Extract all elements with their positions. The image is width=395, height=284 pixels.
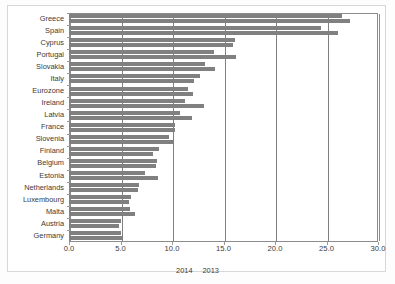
bar-2014 [69,219,121,223]
category-label: Malta [46,208,64,216]
chart-legend: 20142013 [0,259,395,277]
bar-2014 [69,123,175,127]
gridline-30.0 [379,14,380,241]
bar-2013 [69,92,193,96]
bar-group [69,147,378,159]
bars-layer [69,13,378,242]
category-label: Italy [50,75,64,83]
bar-2013 [69,188,138,192]
category-label: Belgium [37,159,64,167]
bar-2014 [69,26,321,30]
bar-2014 [69,38,235,42]
bar-2014 [69,62,205,66]
category-label: Austria [41,220,64,228]
category-label: Netherlands [24,184,64,192]
bar-2014 [69,135,169,139]
bar-chart: GreeceSpainCyprusPortugalSlovakiaItalyEu… [0,0,395,284]
category-label: Germany [34,232,64,240]
bar-group [69,123,378,135]
x-tick-label: 20.0 [268,244,283,253]
bar-2014 [69,147,159,151]
bar-group [69,135,378,147]
bar-2014 [69,50,214,54]
category-label: Portugal [36,51,64,59]
bar-2014 [69,159,157,163]
bar-group [69,38,378,50]
bar-group [69,50,378,62]
bar-2013 [69,152,153,156]
x-tick-mark [378,242,379,245]
legend-item-2014: 2014 [176,266,192,275]
bar-2013 [69,55,236,59]
bar-2013 [69,67,215,71]
bar-2014 [69,207,130,211]
bar-2014 [69,231,121,235]
category-axis: GreeceSpainCyprusPortugalSlovakiaItalyEu… [8,13,67,242]
category-label: Slovenia [36,135,64,143]
category-label: Cyprus [41,39,64,47]
bar-group [69,14,378,26]
bar-2014 [69,111,180,115]
x-tick-label: 15.0 [216,244,231,253]
chart-image: GreeceSpainCyprusPortugalSlovakiaItalyEu… [0,0,395,284]
bar-2013 [69,164,156,168]
category-label: Finland [40,147,64,155]
category-label: Luxembourg [23,196,64,204]
bar-2014 [69,87,188,91]
bar-2013 [69,128,175,132]
category-label: Slovakia [36,63,64,71]
bar-2013 [69,236,123,240]
bar-group [69,111,378,123]
bar-2013 [69,79,194,83]
bar-2014 [69,171,145,175]
x-tick-mark [224,242,225,245]
category-label: France [41,123,64,131]
x-tick-mark [275,242,276,245]
bar-2014 [69,14,342,18]
bar-group [69,159,378,171]
x-tick-label: 30.0 [371,244,386,253]
bar-2013 [69,140,173,144]
bar-group [69,26,378,38]
bar-2013 [69,116,192,120]
x-tick-mark [69,242,70,245]
bar-group [69,62,378,74]
x-tick-label: 0.0 [64,244,75,253]
bar-group [69,195,378,207]
category-label: Greece [40,15,64,23]
x-tick-label: 10.0 [165,244,180,253]
category-label: Latvia [44,111,64,119]
x-tick-mark [327,242,328,245]
bar-group [69,183,378,195]
value-axis-labels: 0.05.010.015.020.025.030.0 [0,244,395,256]
category-label: Eurozone [32,87,64,95]
bar-group [69,87,378,99]
bar-2013 [69,212,135,216]
legend-item-2013: 2013 [203,266,219,275]
bar-2013 [69,104,204,108]
bar-group [69,171,378,183]
category-label: Spain [45,27,64,35]
bar-group [69,219,378,231]
bar-group [69,74,378,86]
x-tick-mark [121,242,122,245]
bar-2013 [69,224,119,228]
bar-2013 [69,176,158,180]
bar-2014 [69,74,200,78]
x-tick-mark [172,242,173,245]
bar-2014 [69,183,139,187]
bar-2014 [69,99,185,103]
bar-2013 [69,19,350,23]
category-label: Estonia [39,172,64,180]
bar-2013 [69,200,129,204]
bar-2014 [69,195,131,199]
x-tick-label: 5.0 [115,244,126,253]
bar-group [69,99,378,111]
bar-2013 [69,31,338,35]
category-label: Ireland [41,99,64,107]
bar-group [69,207,378,219]
x-tick-label: 25.0 [319,244,334,253]
bar-2013 [69,43,233,47]
